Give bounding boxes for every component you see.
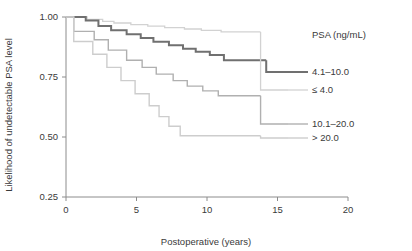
- x-axis-title: Postoperative (years): [161, 236, 251, 247]
- legend-label-1: ≤ 4.0: [312, 84, 333, 95]
- km-curve-2: [66, 17, 261, 96]
- y-tick-label: 0.75: [40, 71, 59, 82]
- y-axis-tick-labels: 0.250.500.751.00: [40, 11, 59, 202]
- chart-container: 0.250.500.751.00 05101520 Postoperative …: [0, 0, 412, 251]
- data-series-group: [66, 17, 266, 136]
- x-tick-label: 5: [134, 204, 139, 215]
- legend-label-0: 4.1–10.0: [312, 66, 349, 77]
- legend-label-2: 10.1–20.0: [312, 118, 354, 129]
- x-tick-label: 10: [202, 204, 213, 215]
- x-axis-ticks: [66, 197, 348, 201]
- y-tick-label: 0.25: [40, 191, 59, 202]
- y-axis-ticks: [62, 17, 66, 197]
- y-tick-label: 1.00: [40, 11, 59, 22]
- km-curve-3: [66, 17, 261, 136]
- legend-leader-lines: [261, 32, 288, 138]
- x-tick-label: 0: [63, 204, 68, 215]
- legend-leader-3: [261, 136, 288, 138]
- km-curve-0: [66, 17, 261, 32]
- axes: [62, 17, 348, 201]
- x-tick-label: 20: [343, 204, 354, 215]
- x-tick-label: 15: [272, 204, 283, 215]
- y-tick-label: 0.50: [40, 131, 59, 142]
- y-axis-title: Likelihood of undetectable PSA level: [3, 38, 14, 192]
- x-axis-tick-labels: 05101520: [63, 204, 353, 215]
- legend-title: PSA (ng/mL): [312, 29, 366, 40]
- legend-label-3: > 20.0: [312, 132, 339, 143]
- legend-leader-0: [266, 60, 288, 72]
- kaplan-meier-chart: 0.250.500.751.00 05101520 Postoperative …: [0, 0, 412, 251]
- legend-leader-2: [261, 96, 288, 124]
- legend: 4.1–10.0≤ 4.010.1–20.0> 20.0: [288, 66, 354, 143]
